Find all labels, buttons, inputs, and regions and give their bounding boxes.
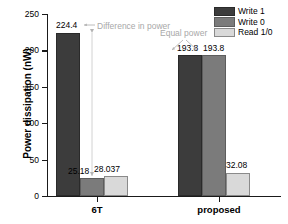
legend-item-write0: Write 0 <box>214 17 284 28</box>
legend-item-read: Read 1/0 <box>214 27 284 38</box>
legend-swatch-read <box>214 28 235 38</box>
bar-label-proposed-read: 32.08 <box>226 161 247 170</box>
y-tick-label-150: 150 <box>12 83 39 92</box>
x-tick-label-6t: 6T <box>62 204 132 215</box>
bar-proposed-write0 <box>202 55 226 196</box>
bar-label-proposed-write1: 193.8 <box>177 44 198 53</box>
bar-chart: Power dissipation (nW) 250 200 150 100 5… <box>0 0 288 224</box>
x-tick-6t <box>97 197 98 202</box>
legend-label-read: Read 1/0 <box>238 27 273 37</box>
bar-6t-read <box>104 176 128 196</box>
x-tick-proposed <box>219 197 220 202</box>
legend-item-write1: Write 1 <box>214 6 284 17</box>
y-tick-label-250: 250 <box>12 10 39 19</box>
bar-label-6t-read: 28.037 <box>94 165 120 174</box>
legend-label-write0: Write 0 <box>238 17 265 27</box>
y-tick-0 <box>42 196 48 197</box>
y-tick-50 <box>42 160 48 161</box>
bar-6t-write0 <box>80 178 104 196</box>
x-tick-label-proposed: proposed <box>184 204 254 215</box>
legend-label-write1: Write 1 <box>238 6 265 16</box>
y-axis-line <box>47 14 48 197</box>
y-tick-200 <box>42 50 48 51</box>
y-tick-150 <box>42 87 48 88</box>
bar-label-proposed-write0: 193.8 <box>203 44 224 53</box>
y-tick-250 <box>42 14 48 15</box>
legend-swatch-write0 <box>214 17 235 27</box>
y-tick-label-50: 50 <box>12 156 39 165</box>
bar-proposed-write1 <box>178 55 202 196</box>
bar-label-6t-write1: 224.4 <box>56 21 77 30</box>
annotation-equal-power: Equal power <box>160 28 207 38</box>
bar-proposed-read <box>226 173 250 196</box>
x-axis-line <box>47 196 281 197</box>
bar-label-6t-write0: 25.18 <box>68 167 89 176</box>
y-tick-label-0: 0 <box>12 192 39 201</box>
legend-swatch-write1 <box>214 7 235 17</box>
y-tick-label-200: 200 <box>12 46 39 55</box>
y-tick-100 <box>42 123 48 124</box>
y-tick-label-100: 100 <box>12 119 39 128</box>
legend: Write 1 Write 0 Read 1/0 <box>214 6 284 39</box>
